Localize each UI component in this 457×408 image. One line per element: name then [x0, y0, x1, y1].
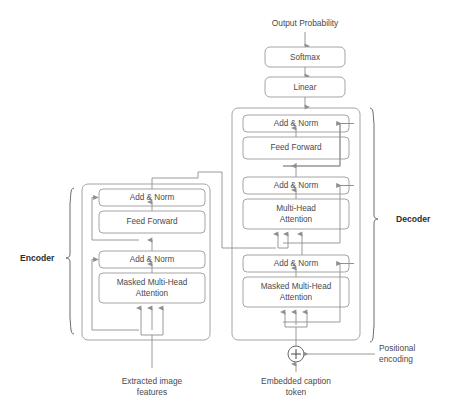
decoder-add-norm-top-label: Add & Norm: [274, 119, 319, 128]
encoder-input-label-line1: Extracted image: [122, 376, 183, 386]
positional-encoding-label-line2: encoding: [379, 354, 413, 364]
encoder-side-label: Encoder: [20, 253, 55, 263]
architecture-svg: Output Probability Softmax Linear Add & …: [0, 0, 457, 408]
softmax-label: Softmax: [290, 53, 320, 62]
encoder-input-label-line2: features: [137, 387, 167, 397]
decoder-cross-attention-label-line2: Attention: [280, 215, 313, 224]
decoder-add-norm-bottom-label: Add & Norm: [274, 259, 319, 268]
wire-encoder-attn-input-join: [141, 330, 163, 335]
decoder-side-label: Decoder: [396, 214, 431, 224]
wire-crossattn-kv-join: [278, 243, 288, 248]
encoder-brace: [66, 188, 74, 334]
encoder-add-norm-bottom-label: Add & Norm: [130, 255, 175, 264]
linear-label: Linear: [294, 83, 317, 92]
encoder-attention-label-line1: Masked Multi-Head: [117, 278, 188, 287]
decoder-add-norm-middle-label: Add & Norm: [274, 181, 319, 190]
output-probability-label: Output Probability: [272, 18, 339, 28]
decoder-self-attention-label-line1: Masked Multi-Head: [261, 282, 332, 291]
encoder-add-norm-top-label: Add & Norm: [130, 193, 175, 202]
decoder-feed-forward-label: Feed Forward: [271, 143, 322, 152]
decoder-brace: [370, 108, 378, 342]
architecture-diagram: Output Probability Softmax Linear Add & …: [0, 0, 457, 408]
decoder-self-attention-label-line2: Attention: [280, 293, 313, 302]
encoder-feed-forward-label: Feed Forward: [127, 217, 178, 226]
encoder-attention-label-line2: Attention: [136, 289, 169, 298]
positional-encoding-label-line1: Positional: [379, 343, 415, 353]
decoder-cross-attention-label-line1: Multi-Head: [276, 204, 316, 213]
decoder-input-label-line1: Embedded caption: [261, 376, 331, 386]
decoder-input-label-line2: token: [286, 387, 307, 397]
